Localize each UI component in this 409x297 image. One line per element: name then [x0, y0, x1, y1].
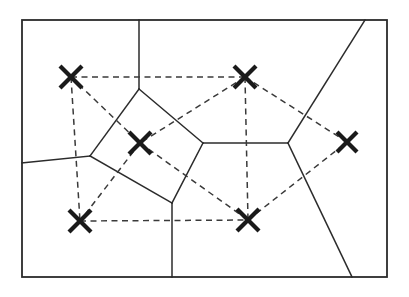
- site-marker-s1[interactable]: [60, 66, 82, 88]
- delaunay-edge-layer: [71, 77, 347, 221]
- delaunay-edge-d6: [245, 77, 347, 142]
- delaunay-edge-d10: [248, 142, 347, 220]
- delaunay-edge-d4: [140, 77, 245, 143]
- bounding-box-frame: [22, 20, 387, 277]
- voronoi-edge-e6: [172, 143, 203, 203]
- voronoi-edge-e2: [90, 89, 139, 156]
- voronoi-figure: [0, 0, 409, 297]
- voronoi-edge-e4: [22, 156, 90, 163]
- voronoi-edge-e10: [288, 143, 352, 277]
- delaunay-edge-d3: [71, 77, 80, 221]
- voronoi-edge-layer: [22, 20, 365, 277]
- delaunay-edge-d5: [245, 77, 248, 220]
- delaunay-edge-d9: [80, 220, 248, 221]
- voronoi-edge-e5: [90, 156, 172, 203]
- site-marker-layer: [60, 66, 357, 232]
- delaunay-edge-d8: [140, 143, 248, 220]
- voronoi-edge-e9: [288, 20, 365, 143]
- voronoi-diagram-canvas: [0, 0, 409, 297]
- site-marker-s3[interactable]: [129, 132, 151, 154]
- frame-layer: [22, 20, 387, 277]
- site-marker-s4[interactable]: [337, 132, 357, 152]
- site-marker-s2[interactable]: [234, 66, 256, 88]
